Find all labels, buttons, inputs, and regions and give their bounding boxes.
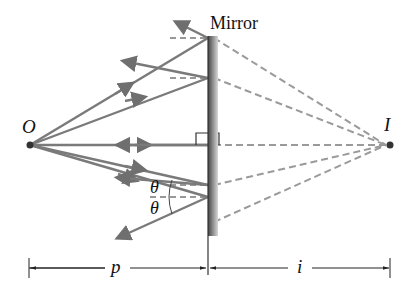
incident-rays [30, 38, 208, 197]
mirror-diagram [0, 0, 407, 287]
virtual-rays [214, 38, 386, 222]
angle-reflected-label: θ [150, 198, 159, 219]
mirror-label: Mirror [210, 13, 258, 34]
reflected-rays [122, 24, 208, 236]
mirror [208, 36, 218, 236]
dimension-lines [29, 258, 390, 278]
object-point [27, 142, 34, 149]
angle-incident-label: θ [150, 177, 159, 198]
object-distance-label: p [111, 256, 121, 278]
image-distance-label: i [297, 256, 302, 278]
image-point [387, 142, 394, 149]
image-label: I [384, 114, 390, 136]
object-label: O [22, 116, 36, 138]
